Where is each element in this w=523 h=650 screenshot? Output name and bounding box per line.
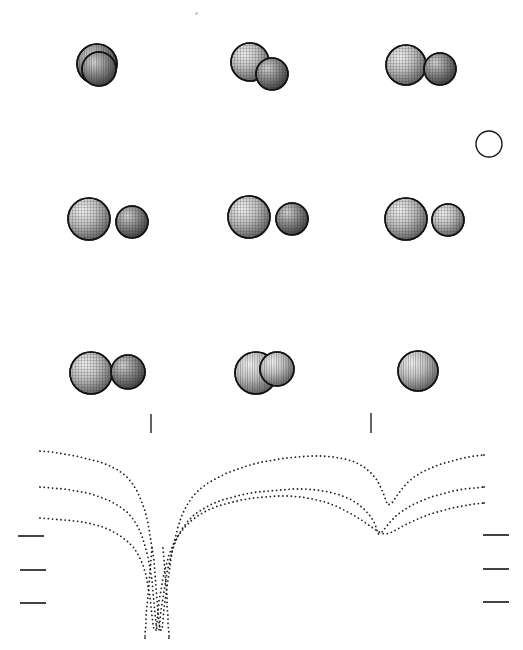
curve-lower-dot [307, 497, 309, 499]
funnel-tail-left-dot [144, 637, 146, 639]
curve-upper-dot [168, 576, 170, 578]
figure-canvas [0, 0, 523, 650]
curve-upper-dot [177, 527, 179, 529]
curve-lower-dot [130, 544, 132, 546]
sphere-small-texture [117, 207, 147, 237]
curve-middle-dot [60, 488, 62, 490]
curve-middle-dot [297, 488, 299, 490]
curve-middle-dot [267, 490, 269, 492]
curve-middle-dot [156, 627, 158, 629]
curve-lower-dot [212, 507, 214, 509]
curve-middle-dot [154, 611, 156, 613]
curve-upper-dot [257, 462, 259, 464]
curve-middle-dot [334, 493, 336, 495]
curve-lower-dot [339, 507, 341, 509]
curve-upper-dot [52, 451, 54, 453]
curve-upper-dot [141, 501, 143, 503]
curve-upper-dot [410, 479, 412, 481]
curve-upper-dot [160, 629, 162, 631]
curve-middle-dot [190, 518, 192, 520]
curve-lower-dot [39, 517, 41, 519]
curve-upper-dot [165, 597, 167, 599]
curve-upper-dot [307, 455, 309, 457]
curve-middle-dot [412, 503, 414, 505]
curve-middle-dot [387, 524, 389, 526]
curve-middle-dot [85, 492, 87, 494]
curve-middle-dot [126, 511, 128, 513]
funnel-tail-left-dot [148, 589, 150, 591]
curve-lower-dot [179, 532, 181, 534]
curve-upper-dot [311, 455, 313, 457]
curve-lower-dot [157, 608, 159, 610]
curve-middle-dot [428, 497, 430, 499]
row3-panel-right [398, 351, 438, 391]
funnel-tail-right-dot [167, 622, 169, 624]
curve-middle-dot [326, 491, 328, 493]
curve-middle-dot [141, 536, 143, 538]
curve-lower-dot [160, 592, 162, 594]
curve-lower-dot [190, 520, 192, 522]
curve-upper-dot [149, 534, 151, 536]
curve-lower-dot [77, 520, 79, 522]
funnel-tail-left-dot [146, 602, 148, 604]
sphere-large-texture [387, 46, 425, 84]
curve-lower-dot [257, 497, 259, 499]
curve-middle-dot [346, 497, 348, 499]
curve-upper-dot [392, 501, 394, 503]
curve-upper-dot [378, 482, 380, 484]
curve-middle-dot [271, 490, 273, 492]
curve-lower-dot [160, 587, 162, 589]
curve-lower-dot [286, 495, 288, 497]
curve-upper-dot [225, 473, 227, 475]
curve-middle-dot [164, 583, 166, 585]
curve-lower-dot [158, 604, 160, 606]
curve-lower-dot [409, 522, 411, 524]
curve-upper-dot [93, 460, 95, 462]
curve-middle-dot [460, 489, 462, 491]
funnel-tail-left-dot [145, 622, 147, 624]
curve-lower-dot [150, 606, 152, 608]
curve-middle-dot [161, 604, 163, 606]
curve-lower-dot [282, 495, 284, 497]
curve-upper-dot [153, 559, 155, 561]
curve-lower-dot [357, 517, 359, 519]
curve-lower-dot [299, 496, 301, 498]
curve-upper-dot [72, 455, 74, 457]
curve-middle-dot [153, 598, 155, 600]
curve-upper-dot [155, 584, 157, 586]
funnel-tail-left-dot [146, 606, 148, 608]
curve-middle-dot [154, 615, 156, 617]
curve-middle-dot [152, 590, 154, 592]
funnel-tail-right-dot [166, 593, 168, 595]
curve-middle-dot [72, 490, 74, 492]
vertical-tick-marks [151, 413, 371, 433]
curve-lower-dot [187, 523, 189, 525]
curve-lower-dot [146, 581, 148, 583]
curve-upper-dot [156, 601, 158, 603]
curve-middle-dot [313, 489, 315, 491]
curve-middle-dot [292, 488, 294, 490]
curve-upper-dot [207, 482, 209, 484]
curve-middle-dot [167, 566, 169, 568]
curve-upper-dot [200, 487, 202, 489]
funnel-tail-right-dot [165, 581, 167, 583]
curve-middle-dot [276, 489, 278, 491]
curve-upper-dot [290, 457, 292, 459]
curve-upper-dot [163, 609, 165, 611]
curve-upper-dot [367, 469, 369, 471]
curve-middle-dot [152, 594, 154, 596]
curve-upper-dot [183, 511, 185, 513]
curve-lower-dot [159, 596, 161, 598]
curve-lower-dot [150, 602, 152, 604]
funnel-tail-right-dot [168, 637, 170, 639]
curve-lower-dot [368, 524, 370, 526]
curve-upper-dot [460, 458, 462, 460]
curve-middle-dot [448, 491, 450, 493]
curve-middle-dot [214, 502, 216, 504]
funnel-tail-left-dot [148, 585, 150, 587]
curve-lower-dot [405, 524, 407, 526]
curve-middle-dot [207, 506, 209, 508]
curve-lower-dot [347, 511, 349, 513]
curve-upper-dot [336, 457, 338, 459]
funnel-tail-right-dot [165, 576, 167, 578]
